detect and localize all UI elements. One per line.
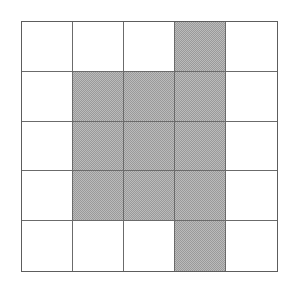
grid-cell-r1-c5[interactable] [226, 22, 277, 72]
grid-cell-r1-c4[interactable] [175, 22, 226, 72]
grid-cell-r4-c4[interactable] [175, 171, 226, 221]
grid-cell-r5-c5[interactable] [226, 221, 277, 271]
grid-container [21, 21, 278, 272]
grid-cell-r3-c4[interactable] [175, 122, 226, 172]
grid-cell-r4-c3[interactable] [124, 171, 175, 221]
grid-cell-r5-c4[interactable] [175, 221, 226, 271]
grid-cell-r4-c1[interactable] [22, 171, 73, 221]
grid-cell-r2-c4[interactable] [175, 72, 226, 122]
grid-cell-r5-c1[interactable] [22, 221, 73, 271]
grid-cell-r3-c3[interactable] [124, 122, 175, 172]
grid-cell-r4-c2[interactable] [73, 171, 124, 221]
grid-cell-r3-c2[interactable] [73, 122, 124, 172]
grid-cell-r2-c2[interactable] [73, 72, 124, 122]
grid-cell-r5-c2[interactable] [73, 221, 124, 271]
figure-canvas [0, 0, 308, 294]
grid-cell-r1-c1[interactable] [22, 22, 73, 72]
grid-cell-r3-c1[interactable] [22, 122, 73, 172]
cell-grid [21, 21, 278, 272]
grid-cell-r1-c3[interactable] [124, 22, 175, 72]
grid-cell-r4-c5[interactable] [226, 171, 277, 221]
grid-cell-r5-c3[interactable] [124, 221, 175, 271]
grid-cell-r3-c5[interactable] [226, 122, 277, 172]
grid-cell-r2-c1[interactable] [22, 72, 73, 122]
grid-cell-r2-c5[interactable] [226, 72, 277, 122]
grid-cell-r2-c3[interactable] [124, 72, 175, 122]
grid-cell-r1-c2[interactable] [73, 22, 124, 72]
